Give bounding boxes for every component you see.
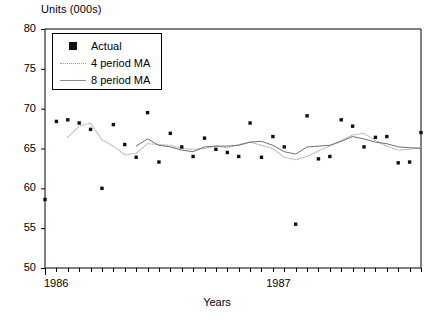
solid-line-key-icon: [55, 80, 91, 81]
legend-item-actual: Actual: [53, 38, 163, 54]
legend-label-4-period-ma: 4 period MA: [91, 57, 150, 69]
dotted-line-key-icon: [55, 63, 91, 64]
legend-item-4-period-ma: 4 period MA: [53, 55, 163, 71]
legend-label-8-period-ma: 8 period MA: [91, 74, 150, 86]
chart-legend: Actual 4 period MA 8 period MA: [52, 33, 162, 90]
filled-square-marker-icon: [55, 42, 91, 50]
series-line-8-period-ma: [136, 137, 421, 155]
legend-label-actual: Actual: [91, 40, 122, 52]
series-line-4-period-ma: [68, 123, 421, 160]
x-axis-title: Years: [0, 296, 434, 308]
chart-container: Units (000s) 80757065605550 19861987 Act…: [0, 0, 434, 320]
legend-item-8-period-ma: 8 period MA: [53, 72, 163, 88]
series-markers-actual: [43, 111, 422, 226]
